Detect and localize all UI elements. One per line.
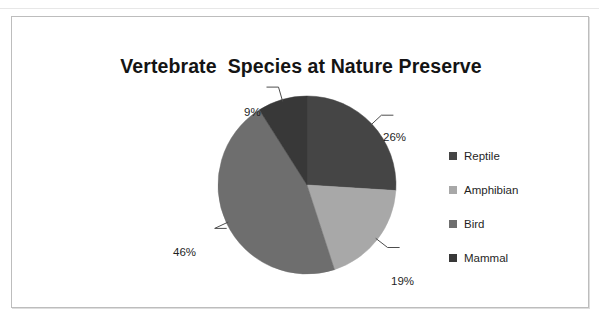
pie-slice-group	[218, 96, 396, 274]
legend-label-bird: Bird	[464, 218, 484, 230]
legend-swatch-icon-amphibian	[449, 186, 457, 194]
pie-leader-line-amphibian	[376, 238, 400, 247]
legend-swatch-icon-bird	[449, 220, 457, 228]
legend-label-amphibian: Amphibian	[464, 184, 518, 196]
legend-label-reptile: Reptile	[464, 150, 500, 162]
pie-leader-line-mammal	[267, 87, 283, 101]
pie-slice-reptile[interactable]	[307, 96, 396, 191]
legend-item-mammal[interactable]: Mammal	[449, 241, 569, 275]
chart-frame: Vertebrate Species at Nature Preserve 9%…	[11, 16, 589, 308]
chart-legend: Reptile Amphibian Bird Mammal	[449, 139, 569, 275]
legend-item-amphibian[interactable]: Amphibian	[449, 173, 569, 207]
pie-label-bird: 46%	[173, 246, 196, 258]
legend-item-reptile[interactable]: Reptile	[449, 139, 569, 173]
legend-swatch-icon-mammal	[449, 254, 457, 262]
pie-label-reptile: 26%	[383, 131, 406, 143]
legend-swatch-icon-reptile	[449, 152, 457, 160]
pie-label-amphibian: 19%	[391, 275, 414, 287]
pie-leader-line-reptile	[370, 115, 393, 125]
scan-artifact-line	[0, 8, 599, 9]
pie-leader-line-bird	[215, 222, 229, 228]
pie-label-mammal: 9%	[244, 106, 261, 118]
legend-label-mammal: Mammal	[464, 252, 508, 264]
pie-chart-svg	[192, 83, 422, 288]
legend-item-bird[interactable]: Bird	[449, 207, 569, 241]
